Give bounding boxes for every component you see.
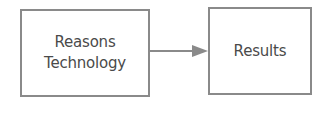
node-label-line: Results: [234, 41, 287, 62]
node-results: Results: [208, 7, 312, 95]
arrowhead-icon: [192, 45, 208, 57]
